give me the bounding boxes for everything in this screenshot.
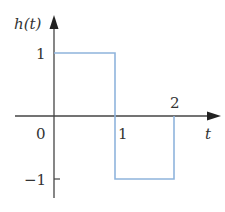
signal-plot: h(t) 1 0 1 2 t −1	[0, 0, 225, 212]
y-axis-label: h(t)	[14, 15, 42, 33]
x-tick-label-2: 2	[170, 94, 180, 112]
y-axis-arrow-icon	[50, 15, 59, 29]
y-tick-label-neg1: −1	[24, 171, 46, 189]
origin-label: 0	[36, 125, 46, 143]
x-axis-arrow-icon	[207, 112, 221, 121]
plot-canvas: h(t) 1 0 1 2 t −1	[0, 0, 225, 212]
x-tick-label-1: 1	[118, 125, 128, 143]
x-axis-label: t	[205, 125, 212, 143]
y-tick-label-1: 1	[36, 45, 46, 63]
